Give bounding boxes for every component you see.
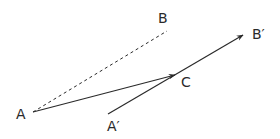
label-c: C [181,74,191,90]
label-b: B [158,10,168,26]
segment-a-b-dashed [33,31,167,112]
arrow-a-c [33,75,175,112]
label-b-prime: B′ [252,26,265,42]
vector-diagram: A B C B′ A′ [0,0,280,139]
label-a: A [16,106,26,122]
arrow-aprime-bprime [108,35,243,114]
label-a-prime: A′ [107,118,120,134]
